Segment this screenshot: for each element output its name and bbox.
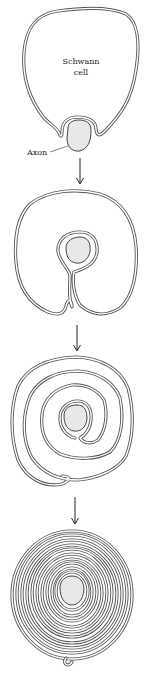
axon [60, 576, 84, 605]
axon-leader-line [50, 146, 68, 152]
axon [67, 120, 91, 151]
stage-1: Schwann cell Axon [24, 8, 138, 157]
stage-4 [12, 531, 132, 665]
axon [64, 405, 87, 431]
stage-3 [12, 357, 132, 485]
arrow-1-to-2 [77, 158, 84, 184]
axon-label: Axon [26, 148, 47, 157]
stage-2 [16, 191, 137, 314]
schwann-cell-label-line1: Schwann [62, 57, 99, 66]
arrow-3-to-4 [72, 497, 79, 524]
myelination-diagram: Schwann cell Axon [0, 0, 145, 681]
arrow-2-to-3 [74, 325, 81, 351]
axon [66, 237, 90, 263]
schwann-cell-label-line2: cell [74, 68, 89, 77]
